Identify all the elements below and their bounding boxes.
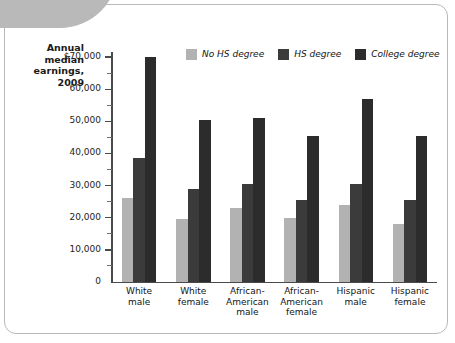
x-axis-category-label: African-Americanmale [220,286,274,318]
bar [145,57,157,282]
x-axis-category-label-line: Hispanic [329,286,383,297]
y-axis-tick-label-text: 0 [95,276,101,286]
bar [230,208,242,282]
x-axis-category-label-line: male [220,307,274,318]
x-axis-category-label-line: African- [220,286,274,297]
bar [416,136,428,282]
y-axis-tick-label-text: 50,000 [70,115,102,125]
y-axis-tick-label-text: $70,000 [64,51,101,61]
bar [122,198,134,282]
bar [199,120,211,282]
y-axis-major-tick [105,89,112,90]
bar [253,118,265,282]
x-axis-category-label: Whitefemale [166,286,220,307]
x-axis-category-label-line: female [383,297,437,308]
x-axis-category-label-line: White [166,286,220,297]
y-axis-major-tick [105,56,112,57]
y-axis-tick-label-text: 40,000 [70,147,102,157]
x-axis-category-label-line: female [166,297,220,308]
bar [362,99,374,282]
y-axis-tick-label-text: 20,000 [70,212,102,222]
chart-page: Annual median earnings, 2009 No HS degre… [0,0,455,343]
x-axis-category-label: African-Americanfemale [275,286,329,318]
bar [404,200,416,282]
y-axis-major-tick [105,217,112,218]
x-axis-category-label-line: American [220,297,274,308]
bar [307,136,319,282]
y-axis-tick-label-text: 60,000 [70,83,102,93]
x-axis-category-label-line: White [112,286,166,297]
bar [188,189,200,282]
bar [133,158,145,282]
bar [393,224,405,282]
y-axis-major-tick [105,153,112,154]
x-axis-category-label-line: American [275,297,329,308]
x-axis-category-label: Hispanicmale [329,286,383,307]
x-axis-category-label-line: male [112,297,166,308]
bar [242,184,254,282]
x-axis-category-label: Whitemale [112,286,166,307]
y-axis-major-tick [105,185,112,186]
x-axis-category-label-line: male [329,297,383,308]
bar [176,219,188,282]
y-axis-tick-label-text: 10,000 [70,244,102,254]
bar [296,200,308,282]
y-axis-major-tick [105,121,112,122]
bar [350,184,362,282]
x-axis-category-label: Hispanicfemale [383,286,437,307]
x-axis-category-label-line: female [275,307,329,318]
y-axis-tick-labels: 010,00020,00030,00040,00050,00060,000$70… [0,0,101,343]
x-axis-category-label-line: Hispanic [383,286,437,297]
y-axis-tick-label-text: 30,000 [70,180,102,190]
bar [284,218,296,282]
x-axis-category-label-line: African- [275,286,329,297]
y-axis-major-tick [105,249,112,250]
plot-area [112,57,437,282]
bar [339,205,351,282]
